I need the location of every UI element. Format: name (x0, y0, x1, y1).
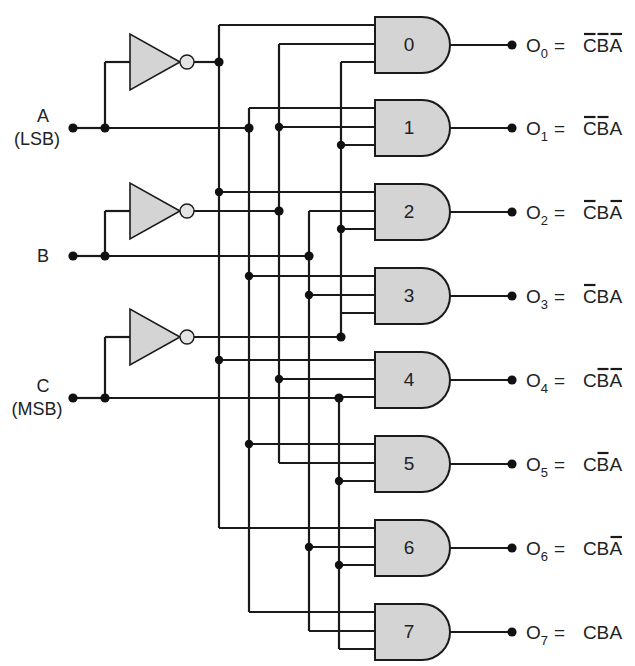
output-term: B (597, 622, 610, 643)
input-note: (LSB) (14, 129, 60, 149)
output-term: C (583, 202, 597, 223)
input-note: (MSB) (12, 399, 63, 419)
input-label: B (37, 246, 49, 266)
output-label-6: O6= (526, 538, 565, 564)
output-term: A (610, 202, 623, 223)
output-label-7: O7= (526, 622, 565, 648)
inversion-bubble-icon (180, 55, 194, 69)
output-term: A (610, 35, 623, 56)
output-term: C (583, 286, 597, 307)
inputs: A(LSB)BC(MSB) (12, 34, 195, 419)
output-term: A (610, 118, 623, 139)
output-term: A (610, 286, 623, 307)
output-term: B (597, 118, 610, 139)
output-term: C (583, 118, 597, 139)
gate-label: 5 (404, 453, 415, 474)
output-label-1: O1= (526, 118, 565, 144)
output-label-3: O3= (526, 286, 565, 312)
inverter-icon (130, 309, 180, 365)
input-b: B (37, 183, 194, 266)
inversion-bubble-icon (180, 204, 194, 218)
output-term: B (597, 286, 610, 307)
output-term: B (597, 538, 610, 559)
output-label-0: O0= (526, 35, 565, 61)
gate-label: 1 (404, 117, 415, 138)
output-term: C (583, 35, 597, 56)
gate-label: 6 (404, 537, 415, 558)
output-term: C (583, 370, 597, 391)
output-term: B (597, 202, 610, 223)
input-label: A (37, 106, 49, 126)
gate-label: 0 (404, 34, 415, 55)
input-label: C (37, 376, 50, 396)
output-term: B (597, 454, 610, 475)
inversion-bubble-icon (180, 330, 194, 344)
output-term: A (610, 454, 623, 475)
output-term: B (597, 35, 610, 56)
output-term: A (610, 370, 623, 391)
output-term: C (583, 538, 597, 559)
output-label-4: O4= (526, 370, 565, 396)
output-term: B (597, 370, 610, 391)
output-term: A (610, 538, 623, 559)
output-term: C (583, 622, 597, 643)
decoder-circuit: A(LSB)BC(MSB)0O0= CBA1O1= CBA2O2= CBA3O3… (0, 0, 635, 666)
inverter-icon (130, 34, 180, 90)
gate-label: 7 (404, 621, 415, 642)
output-term: C (583, 454, 597, 475)
gate-label: 2 (404, 201, 415, 222)
output-label-5: O5= (526, 454, 565, 480)
input-c: C(MSB) (12, 309, 195, 419)
gate-label: 3 (404, 285, 415, 306)
output-label-2: O2= (526, 202, 565, 228)
inverter-icon (130, 183, 180, 239)
gate-label: 4 (404, 369, 415, 390)
output-term: A (610, 622, 623, 643)
and-gates: 0O0= CBA1O1= CBA2O2= CBA3O3= CBA4O4= CBA… (375, 17, 623, 660)
